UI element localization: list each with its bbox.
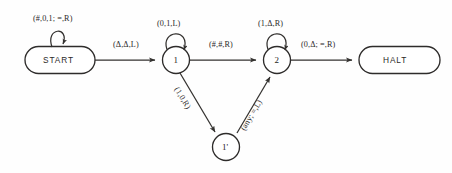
edge-label-state2-self-loop: (1,Δ,R) <box>258 20 283 28</box>
node-state1prime-label: 1' <box>222 143 228 152</box>
edge-label-state1-to-state2: (#,#,R) <box>209 41 233 49</box>
edge-label-start-to-state1: (Δ,Δ,L) <box>113 41 139 49</box>
node-halt-label: HALT <box>383 56 407 64</box>
node-start-label: START <box>43 56 74 64</box>
edge-start-self-loop <box>51 31 65 47</box>
edge-label-state2-to-halt: (0,Δ; =,R) <box>301 41 335 49</box>
edge-label-start-self-loop: (#,0,1; =,R) <box>33 15 72 23</box>
node-state2-label: 2 <box>275 56 280 65</box>
node-state1-label: 1 <box>174 56 179 65</box>
edge-label-state1-self-loop: (0,1,L) <box>157 20 180 28</box>
turing-machine-diagram: START 1 2 1' HALT (#,0,1; =,R) (Δ,Δ,L) (… <box>0 0 452 173</box>
